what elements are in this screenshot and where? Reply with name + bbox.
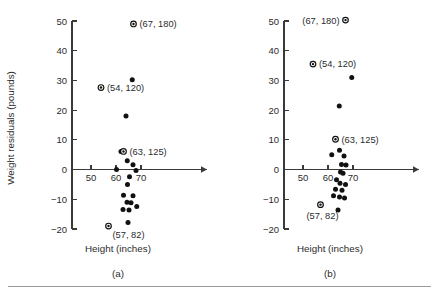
- data-point-dot: [339, 162, 344, 167]
- y-axis-tick-label: 30: [268, 75, 279, 86]
- y-axis-tick-label: 40: [56, 45, 67, 56]
- data-point-dot: [344, 163, 349, 168]
- data-point-dot: [134, 168, 139, 173]
- panel-b-svg: −20−1001020304050506070 (67, 180)(54, 12…: [220, 0, 439, 301]
- data-point: [342, 17, 349, 24]
- data-point-dot: [333, 187, 338, 192]
- data-point-dot: [349, 75, 354, 80]
- data-point-ring-core: [312, 63, 314, 65]
- data-point: [134, 204, 139, 209]
- data-point-dot: [334, 177, 339, 182]
- data-point-ring-core: [107, 225, 109, 227]
- data-point: [340, 188, 345, 193]
- panel-a-points: [98, 21, 140, 230]
- data-point-label: (63, 125): [130, 147, 167, 157]
- data-point: [334, 177, 339, 182]
- x-axis-arrow-icon: [201, 166, 207, 172]
- data-point-label: (57, 82): [113, 230, 145, 240]
- data-point-dot: [329, 152, 334, 157]
- x-axis-tick-label: 50: [298, 172, 309, 183]
- data-point-dot: [129, 200, 134, 205]
- data-point-ring-core: [344, 19, 346, 21]
- x-axis-tick-label: 70: [348, 172, 359, 183]
- data-point-dot: [124, 114, 129, 119]
- y-axis-tick-label: 40: [268, 45, 279, 56]
- data-point: [124, 114, 129, 119]
- x-axis-title: Height (inches): [297, 243, 363, 254]
- data-point-dot: [338, 181, 343, 186]
- data-point-ring-core: [122, 150, 124, 152]
- data-point: [332, 136, 339, 143]
- data-point-dot: [331, 193, 336, 198]
- data-point-ring-core: [100, 86, 102, 88]
- data-point-ring-core: [132, 23, 134, 25]
- data-point: [344, 163, 349, 168]
- data-point: [129, 200, 134, 205]
- data-point: [131, 162, 136, 167]
- y-axis-tick-label: 20: [268, 105, 279, 116]
- scatter-panel-b: −20−1001020304050506070 (67, 180)(54, 12…: [220, 0, 439, 301]
- data-point-dot: [342, 153, 347, 158]
- y-axis-tick-label: −20: [51, 224, 67, 235]
- data-point-dot: [131, 193, 136, 198]
- data-point-label: (54, 120): [107, 83, 144, 93]
- data-point: [329, 152, 334, 157]
- data-point: [342, 153, 347, 158]
- scatter-panel-a: −20−1001020304050506070 (67, 180)(54, 12…: [0, 0, 219, 301]
- data-point-dot: [337, 148, 342, 153]
- data-point-label: (67, 180): [302, 16, 339, 26]
- data-point: [338, 181, 343, 186]
- panel-a-subcaption: (a): [112, 268, 124, 279]
- y-axis-tick-label: −10: [51, 194, 67, 205]
- data-point: [121, 193, 126, 198]
- y-axis-title: Weight residuals (pounds): [5, 71, 16, 185]
- data-point: [343, 182, 348, 187]
- data-point-dot: [125, 182, 130, 187]
- data-point-dot: [342, 196, 347, 201]
- y-axis-tick-label: −10: [263, 194, 279, 205]
- data-point: [337, 148, 342, 153]
- data-point: [331, 193, 336, 198]
- data-point-dot: [126, 220, 131, 225]
- data-point: [130, 21, 137, 28]
- data-point: [342, 196, 347, 201]
- data-point-label: (57, 82): [306, 211, 338, 221]
- data-point: [349, 75, 354, 80]
- data-point: [105, 223, 112, 230]
- data-point: [125, 158, 130, 163]
- data-point: [337, 194, 342, 199]
- panel-a-annotations: (67, 180)(54, 120)(63, 125)(57, 82): [107, 19, 177, 240]
- data-point-dot: [341, 171, 346, 176]
- data-point-ring-core: [334, 138, 336, 140]
- data-point-label: (54, 120): [319, 59, 356, 69]
- data-point-dot: [343, 182, 348, 187]
- data-point-dot: [131, 162, 136, 167]
- x-axis-tick-label: 50: [86, 172, 97, 183]
- data-point-dot: [127, 207, 132, 212]
- data-point-dot: [127, 174, 132, 179]
- data-point-dot: [134, 204, 139, 209]
- figure-bottom-rule: [8, 286, 431, 287]
- data-point: [131, 193, 136, 198]
- data-point-dot: [337, 103, 342, 108]
- panel-a-svg: −20−1001020304050506070 (67, 180)(54, 12…: [0, 0, 219, 301]
- data-point: [341, 171, 346, 176]
- data-point: [310, 61, 317, 68]
- data-point: [337, 103, 342, 108]
- data-point-dot: [340, 188, 345, 193]
- data-point-dot: [121, 207, 126, 212]
- panel-b-axes: −20−1001020304050506070: [263, 16, 419, 235]
- y-axis-tick-label: 50: [268, 16, 279, 27]
- y-axis-tick-label: 0: [62, 164, 67, 175]
- y-axis-tick-label: 50: [56, 16, 67, 27]
- data-point-dot: [114, 167, 119, 172]
- data-point: [125, 182, 130, 187]
- panel-b-subcaption: (b): [324, 268, 336, 279]
- data-point: [127, 174, 132, 179]
- data-point: [317, 201, 324, 208]
- y-axis-tick-label: 10: [56, 134, 67, 145]
- x-axis-tick-label: 60: [323, 172, 334, 183]
- x-axis-tick-label: 60: [111, 172, 122, 183]
- x-axis-arrow-icon: [413, 166, 419, 172]
- data-point: [134, 168, 139, 173]
